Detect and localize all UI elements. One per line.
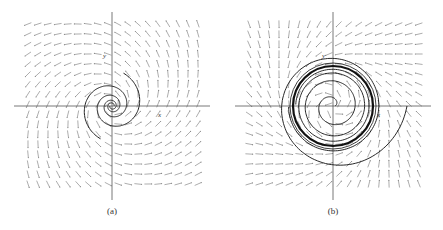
caption-b: (b) — [318, 206, 348, 216]
phase-portrait-a: yx — [14, 12, 210, 200]
direction-field — [245, 20, 422, 187]
phase-portrait-figure: yx yx — [0, 0, 443, 230]
phase-portrait-b: yx — [235, 12, 431, 200]
trajectory-label-x: x — [157, 111, 162, 119]
caption-a: (a) — [97, 206, 127, 216]
trajectory-label-x: x — [376, 111, 381, 119]
